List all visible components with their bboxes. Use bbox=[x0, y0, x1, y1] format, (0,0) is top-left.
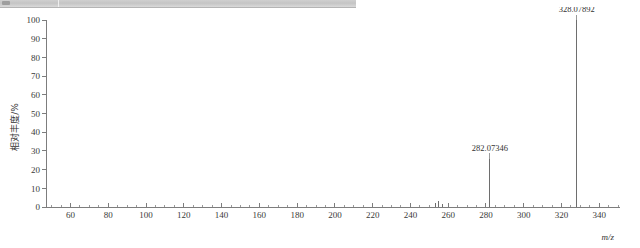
y-tick-label: 50 bbox=[31, 109, 41, 119]
annotation-label: 328.07892 bbox=[559, 7, 595, 14]
chrome-divider bbox=[58, 0, 59, 7]
x-tick-label: 200 bbox=[328, 210, 342, 220]
mass-spectrum-figure: 相对丰度/% m/z 0102030405060708090100 608010… bbox=[0, 7, 640, 248]
x-tick-label: 320 bbox=[555, 210, 569, 220]
x-axis-title: m/z bbox=[601, 232, 614, 242]
x-tick-label: 300 bbox=[517, 210, 531, 220]
y-axis-title: 相对丰度/% bbox=[9, 103, 20, 151]
mass-spectrum-plot: 相对丰度/% m/z 0102030405060708090100 608010… bbox=[0, 7, 640, 248]
y-tick-label: 100 bbox=[27, 15, 41, 25]
x-tick-label: 80 bbox=[104, 210, 114, 220]
y-tick-label: 10 bbox=[31, 184, 41, 194]
x-tick-label: 60 bbox=[66, 210, 76, 220]
y-tick-label: 80 bbox=[31, 53, 41, 63]
x-tick-label: 180 bbox=[290, 210, 304, 220]
chrome-knob bbox=[2, 1, 10, 5]
y-tick-label: 60 bbox=[31, 90, 41, 100]
y-tick-label: 70 bbox=[31, 71, 41, 81]
y-tick-label: 40 bbox=[31, 127, 41, 137]
y-tick-label: 20 bbox=[31, 165, 41, 175]
y-axis: 0102030405060708090100 bbox=[27, 15, 47, 212]
peaks bbox=[436, 20, 577, 207]
y-tick-label: 0 bbox=[36, 202, 41, 212]
x-tick-label: 160 bbox=[253, 210, 267, 220]
y-tick-label: 30 bbox=[31, 146, 41, 156]
x-tick-label: 340 bbox=[592, 210, 606, 220]
x-tick-label: 260 bbox=[441, 210, 455, 220]
x-tick-label: 240 bbox=[404, 210, 418, 220]
annotation-label: 282.07346 bbox=[472, 143, 508, 153]
x-tick-label: 280 bbox=[479, 210, 493, 220]
y-tick-label: 90 bbox=[31, 34, 41, 44]
x-tick-label: 140 bbox=[215, 210, 229, 220]
x-tick-label: 100 bbox=[139, 210, 153, 220]
x-axis: 6080100120140160180200220240260280300320… bbox=[46, 203, 620, 221]
x-tick-label: 220 bbox=[366, 210, 380, 220]
x-tick-label: 120 bbox=[177, 210, 191, 220]
